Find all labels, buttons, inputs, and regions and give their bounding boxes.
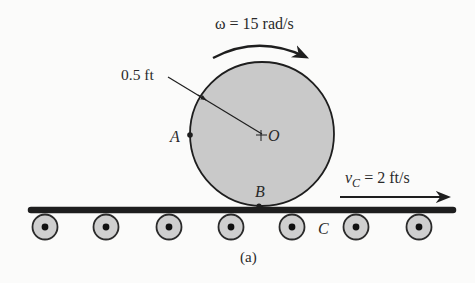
point-c-label: C	[318, 220, 329, 237]
figure-caption: (a)	[240, 249, 257, 266]
roller	[33, 215, 58, 240]
point-b-label: B	[255, 183, 265, 200]
angular-velocity-label: ω = 15 rad/s	[215, 15, 294, 32]
roller	[280, 215, 305, 240]
point-a-label: A	[169, 128, 180, 145]
radius-label: 0.5 ft	[121, 66, 154, 83]
diagram-figure: ω = 15 rad/s 0.5 ft A O B C vC = 2 ft/s …	[0, 0, 475, 283]
point-o-label: O	[268, 127, 280, 144]
angular-velocity-arrow	[213, 46, 306, 58]
belt-velocity-label: vC = 2 ft/s	[345, 169, 410, 190]
roller	[157, 215, 182, 240]
roller	[344, 215, 369, 240]
roller	[94, 215, 119, 240]
roller	[219, 215, 244, 240]
roller	[407, 215, 432, 240]
rollers	[33, 215, 432, 240]
point-a-dot	[187, 132, 193, 138]
point-b-dot	[256, 203, 261, 208]
